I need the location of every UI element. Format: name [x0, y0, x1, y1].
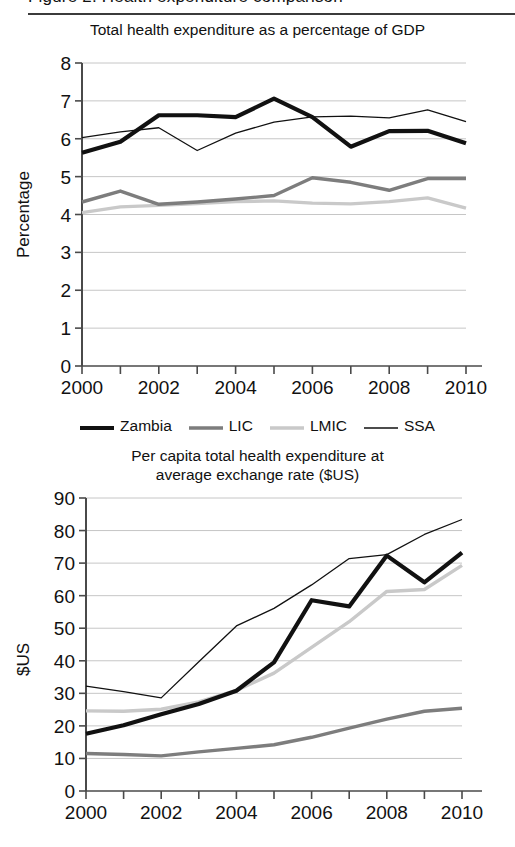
y-tick-label: 20	[54, 716, 75, 737]
y-tick-label: 0	[60, 356, 71, 377]
y-tick-label: 6	[60, 129, 71, 150]
x-tick-label: 2010	[445, 377, 487, 398]
legend-item-lmic: LMIC	[270, 417, 347, 435]
series-line-lic	[86, 708, 462, 756]
y-tick-label: 50	[54, 618, 75, 639]
series-line-lmic	[82, 198, 466, 213]
legend-item-zambia: Zambia	[80, 417, 172, 435]
x-tick-label: 2006	[290, 802, 332, 823]
y-tick-label: 60	[54, 586, 75, 607]
legend-item-ssa: SSA	[364, 417, 435, 435]
chart-legend: ZambiaLICLMICSSA	[0, 417, 515, 435]
y-tick-label: 70	[54, 553, 75, 574]
legend-label-zambia: Zambia	[120, 417, 172, 435]
legend-label-ssa: SSA	[404, 417, 435, 435]
x-tick-label: 2008	[366, 802, 408, 823]
y-tick-label: 2	[60, 280, 71, 301]
legend-swatch-lic	[189, 420, 223, 432]
y-tick-label: 3	[60, 242, 71, 263]
legend-swatch-ssa	[364, 420, 398, 432]
chart-gdp-share: Total health expenditure as a percentage…	[0, 18, 515, 418]
x-tick-label: 2000	[65, 802, 107, 823]
chart-2-plot-area: 0102030405060708090200020022004200620082…	[0, 446, 515, 847]
figure-caption-strip: Figure 2. Health expenditure comparison	[0, 0, 515, 16]
x-tick-label: 2008	[368, 377, 410, 398]
x-tick-label: 2006	[291, 377, 333, 398]
y-tick-label: 5	[60, 167, 71, 188]
y-tick-label: 0	[64, 781, 75, 802]
series-line-zambia	[82, 99, 466, 153]
legend-swatch-lmic	[270, 420, 304, 432]
series-line-zambia	[86, 553, 462, 734]
x-tick-label: 2002	[138, 377, 180, 398]
legend-item-lic: LIC	[189, 417, 253, 435]
x-tick-label: 2002	[140, 802, 182, 823]
y-tick-label: 1	[60, 318, 71, 339]
y-tick-label: 8	[60, 53, 71, 74]
legend-label-lic: LIC	[229, 417, 253, 435]
legend-label-lmic: LMIC	[310, 417, 347, 435]
figure-caption-text: Figure 2. Health expenditure comparison	[28, 0, 343, 7]
y-tick-label: 10	[54, 748, 75, 769]
y-tick-label: 80	[54, 521, 75, 542]
x-tick-label: 2004	[215, 802, 258, 823]
y-tick-label: 40	[54, 651, 75, 672]
chart-1-plot-area: 012345678200020022004200620082010	[0, 18, 515, 418]
y-tick-label: 90	[54, 488, 75, 509]
y-tick-label: 4	[60, 205, 71, 226]
chart-per-capita: Per capita total health expenditure at a…	[0, 446, 515, 847]
series-line-lmic	[86, 565, 462, 711]
y-tick-label: 7	[60, 91, 71, 112]
x-tick-label: 2010	[441, 802, 483, 823]
y-tick-label: 30	[54, 683, 75, 704]
legend-swatch-zambia	[80, 420, 114, 432]
x-tick-label: 2000	[61, 377, 103, 398]
x-tick-label: 2004	[214, 377, 257, 398]
horizontal-rule	[28, 13, 515, 15]
